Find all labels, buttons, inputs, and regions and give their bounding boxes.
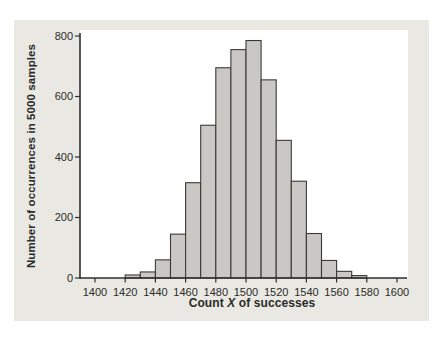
histogram-bar (322, 260, 337, 278)
y-axis-title-text: Number of occurrences in 5000 samples (25, 44, 37, 268)
histogram-bar (171, 234, 186, 278)
x-tick-label: 1400 (83, 286, 107, 298)
y-tick-label: 200 (55, 211, 73, 223)
x-axis-title: Count X of successes (189, 296, 316, 310)
y-tick-label: 400 (55, 151, 73, 163)
y-tick-label: 0 (67, 272, 73, 284)
x-tick-label: 1600 (385, 286, 409, 298)
x-axis-title-post: of successes (235, 296, 315, 310)
histogram-bar (306, 234, 321, 278)
histogram-bar (216, 68, 231, 278)
histogram-bar (246, 41, 261, 278)
histogram-bar (261, 80, 276, 278)
y-tick-label: 600 (55, 90, 73, 102)
histogram-bar (337, 271, 352, 278)
histogram-bar (291, 181, 306, 278)
x-axis-title-variable: X (227, 296, 235, 310)
histogram-bar (276, 140, 291, 278)
y-tick-label: 800 (55, 30, 73, 42)
histogram-bar (140, 272, 155, 278)
histogram-bar (155, 260, 170, 278)
histogram-svg: 1400142014401460148015001520154015601580… (0, 0, 442, 338)
x-tick-label: 1420 (113, 286, 137, 298)
histogram-bar (201, 125, 216, 278)
x-tick-label: 1560 (324, 286, 348, 298)
x-axis-title-pre: Count (189, 296, 228, 310)
x-tick-label: 1440 (143, 286, 167, 298)
histogram-bar (231, 50, 246, 278)
figure: 1400142014401460148015001520154015601580… (0, 0, 442, 338)
y-axis-title: Number of occurrences in 5000 samples (25, 44, 37, 268)
histogram-bar (186, 183, 201, 278)
x-tick-label: 1580 (355, 286, 379, 298)
